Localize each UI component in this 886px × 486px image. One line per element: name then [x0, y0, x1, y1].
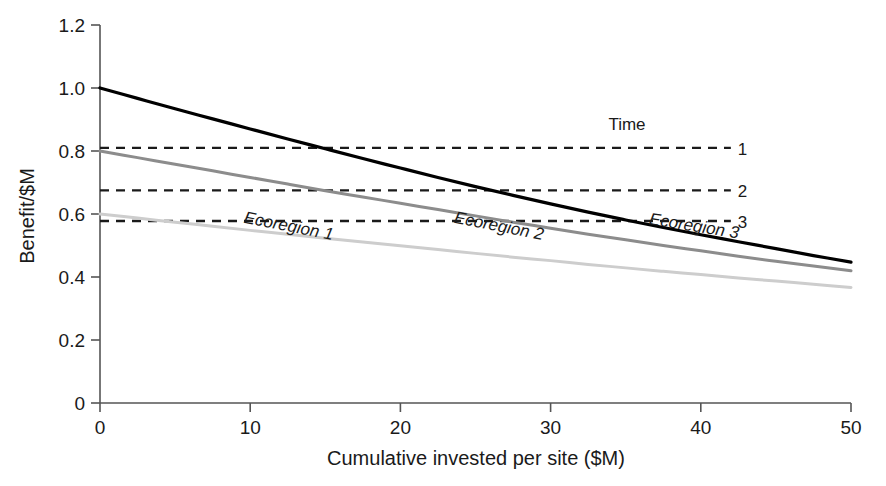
legend-title: Time	[608, 115, 645, 134]
y-tick-label: 0.6	[59, 204, 85, 225]
series-labels-group: Ecoregion 3Ecoregion 2Ecoregion 1	[242, 208, 741, 244]
x-tick-label: 10	[240, 417, 261, 438]
series-label-ecoregion-2: Ecoregion 2	[453, 208, 546, 244]
x-axis-ticks: 01020304050	[95, 403, 862, 438]
series-label-ecoregion-3: Ecoregion 3	[648, 209, 741, 242]
y-tick-label: 1.2	[59, 15, 85, 36]
x-axis-title: Cumulative invested per site ($M)	[327, 447, 625, 469]
x-tick-label: 40	[690, 417, 711, 438]
reference-line-label-1: 1	[738, 140, 747, 159]
y-axis-ticks: 00.20.40.60.81.01.2	[59, 15, 100, 414]
x-tick-label: 30	[540, 417, 561, 438]
series-label-ecoregion-1: Ecoregion 1	[242, 208, 335, 244]
y-tick-label: 0.4	[59, 267, 86, 288]
y-axis-title: Benefit/$M	[16, 168, 38, 264]
y-tick-label: 0.2	[59, 330, 85, 351]
y-tick-label: 0	[74, 393, 85, 414]
x-tick-label: 50	[840, 417, 861, 438]
x-tick-label: 20	[390, 417, 411, 438]
chart-container: 01020304050 00.20.40.60.81.01.2 123 Ecor…	[0, 0, 886, 486]
reference-line-label-2: 2	[738, 182, 747, 201]
y-tick-label: 1.0	[59, 78, 85, 99]
line-chart: 01020304050 00.20.40.60.81.01.2 123 Ecor…	[0, 0, 886, 486]
y-tick-label: 0.8	[59, 141, 85, 162]
x-tick-label: 0	[95, 417, 106, 438]
